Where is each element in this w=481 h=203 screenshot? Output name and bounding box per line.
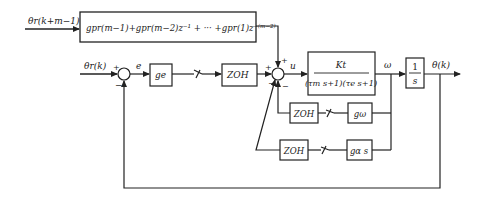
- label-plant-num: Kt: [335, 60, 347, 70]
- label-omega: ω: [384, 60, 392, 70]
- label-theta: θ(k): [432, 60, 450, 70]
- label-gain-alpha: gα s: [350, 146, 369, 156]
- plant-block: [308, 52, 375, 95]
- label-integrator-num: 1: [412, 62, 418, 72]
- outer-feedback-line: [124, 74, 440, 188]
- label-theta-r-future: θr(k+m−1): [28, 16, 80, 26]
- label-plant-den: (τm s+1)(τe s+1): [305, 78, 377, 88]
- sampler-switch-omega-icon: [326, 109, 334, 117]
- label-control-u: u: [290, 61, 296, 71]
- zoh-alpha-to-sum2-line: [256, 80, 280, 150]
- sum-junction-1: [118, 68, 130, 80]
- label-gain-omega: gω: [354, 109, 366, 119]
- sign-sum1-plus: +: [113, 63, 120, 72]
- sign-sum2-plus-top: +: [281, 56, 288, 65]
- label-error: e: [136, 61, 141, 71]
- label-gain-e: ge: [155, 70, 166, 80]
- sampler-switch-alpha-icon: [321, 146, 329, 154]
- label-integrator-den: s: [413, 76, 418, 86]
- label-zoh-main: ZOH: [226, 70, 249, 80]
- sign-sum2-minus-a: −: [268, 79, 275, 88]
- sign-sum2-minus-b: −: [282, 82, 289, 91]
- label-zoh-alpha: ZOH: [283, 146, 305, 156]
- label-zoh-omega: ZOH: [293, 109, 315, 119]
- sign-sum1-minus: −: [115, 80, 123, 90]
- label-feedforward: gpr(m−1)+gpr(m−2)z⁻¹ + ··· +gpr(1)z⁻⁽ᵐ⁻²…: [86, 23, 276, 33]
- sampler-switch-main-icon: [194, 70, 202, 78]
- label-theta-r: θr(k): [84, 61, 107, 71]
- sign-sum2-plus-left: +: [265, 63, 272, 72]
- control-block-diagram: θr(k+m−1) gpr(m−1)+gpr(m−2)z⁻¹ + ··· +gp…: [0, 0, 481, 203]
